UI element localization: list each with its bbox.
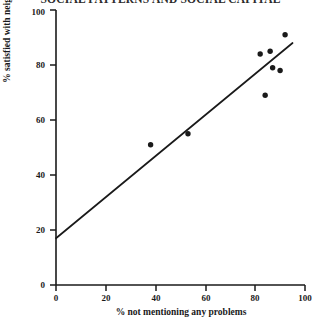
data-point [277, 68, 282, 73]
y-axis-ticks [50, 10, 56, 285]
data-point [282, 32, 287, 37]
data-points-layer [148, 32, 288, 147]
y-axis-label: % satisfied with neighbourhood [2, 0, 12, 88]
x-tick-label-100: 100 [298, 293, 312, 303]
y-tick-label-80: 80 [36, 60, 46, 70]
x-tick-label-40: 40 [152, 293, 162, 303]
x-tick-label-80: 80 [251, 293, 261, 303]
y-axis-tick-labels: 0 20 40 60 80 100 [32, 7, 46, 290]
data-point [148, 142, 153, 147]
chart-figure: SOCIAL PATTERNS AND SOCIAL CAPITAL 0 20 … [0, 0, 321, 327]
y-tick-label-0: 0 [41, 280, 46, 290]
y-tick-label-40: 40 [36, 170, 46, 180]
x-axis-ticks [56, 285, 305, 291]
data-point [270, 65, 275, 70]
plot-canvas: 0 20 40 60 80 100 0 20 40 60 80 100 [0, 0, 321, 327]
x-tick-label-60: 60 [202, 293, 212, 303]
data-point [262, 93, 267, 98]
y-axis-label-wrapper: % satisfied with neighbourhood [2, 0, 12, 88]
y-tick-label-20: 20 [36, 225, 46, 235]
x-tick-label-20: 20 [102, 293, 112, 303]
data-point [267, 49, 272, 54]
data-point [185, 131, 190, 136]
x-axis-label: % not mentioning any problems [56, 307, 306, 317]
y-tick-label-60: 60 [36, 115, 46, 125]
regression-trendline [56, 43, 293, 238]
x-tick-label-0: 0 [54, 293, 59, 303]
x-axis-tick-labels: 0 20 40 60 80 100 [54, 293, 313, 303]
y-tick-label-100: 100 [32, 7, 46, 17]
data-point [257, 51, 262, 56]
